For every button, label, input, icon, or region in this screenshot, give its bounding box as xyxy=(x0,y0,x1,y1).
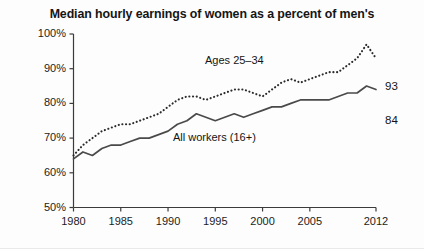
x-axis-tick-label: 2005 xyxy=(285,215,335,227)
chart-page: Median hourly earnings of women as a per… xyxy=(0,0,424,249)
x-axis-tick-label: 1995 xyxy=(190,215,240,227)
x-axis-tick-label: 1990 xyxy=(143,215,193,227)
y-axis-tick-label: 80% xyxy=(20,96,66,108)
x-axis-tick-label: 2012 xyxy=(351,215,401,227)
series-label-ages-25-34: Ages 25–34 xyxy=(205,54,264,66)
y-axis-tick-label: 70% xyxy=(20,131,66,143)
end-value-label-ages-25-34: 93 xyxy=(385,80,398,92)
y-axis-tick-label: 90% xyxy=(20,62,66,74)
y-axis-tick-label: 100% xyxy=(20,27,66,39)
y-axis-tick-label: 60% xyxy=(20,166,66,178)
y-axis-tick-label: 50% xyxy=(20,201,66,213)
x-axis-ticks xyxy=(74,208,377,212)
series-line-all-workers xyxy=(74,86,377,159)
x-axis-tick-label: 2000 xyxy=(238,215,288,227)
series-label-all-workers: All workers (16+) xyxy=(173,131,256,143)
x-axis-tick-label: 1985 xyxy=(96,215,146,227)
x-axis-tick-label: 1980 xyxy=(49,215,99,227)
end-value-label-all-workers: 84 xyxy=(385,114,398,126)
